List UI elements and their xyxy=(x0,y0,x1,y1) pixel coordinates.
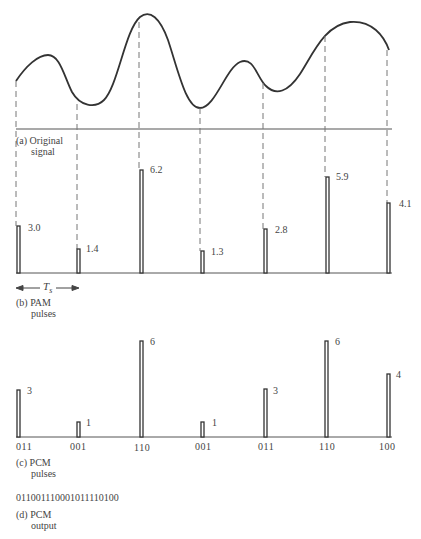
caption-line2: pulses xyxy=(16,308,56,319)
svg-text:1: 1 xyxy=(212,417,217,428)
caption-pcm-output: (d) PCM output xyxy=(16,509,57,531)
caption-line2: pulses xyxy=(16,468,56,479)
svg-text:011: 011 xyxy=(258,441,274,452)
caption-line1: (b) PAM xyxy=(16,297,51,308)
ts-label: Ts xyxy=(43,280,52,295)
svg-text:3: 3 xyxy=(27,385,32,396)
caption-line1: (a) Original xyxy=(16,135,63,146)
pam-pulses xyxy=(17,170,390,273)
svg-text:110: 110 xyxy=(319,441,335,452)
svg-text:5.9: 5.9 xyxy=(336,171,349,182)
svg-text:001: 001 xyxy=(70,441,87,452)
svg-text:1.3: 1.3 xyxy=(211,246,224,257)
caption-pam-pulses: (b) PAM pulses xyxy=(16,297,56,319)
svg-text:2.8: 2.8 xyxy=(275,224,288,235)
svg-text:4.1: 4.1 xyxy=(399,198,412,209)
pam-value-labels: 3.0 1.4 6.2 1.3 2.8 5.9 4.1 xyxy=(28,164,412,257)
pcm-bitstream: 011001110001011110100 xyxy=(16,492,119,503)
caption-pcm-pulses: (c) PCM pulses xyxy=(16,457,56,479)
pcm-pulses xyxy=(17,341,390,437)
svg-text:1.4: 1.4 xyxy=(86,243,99,254)
svg-text:3: 3 xyxy=(273,385,278,396)
svg-text:110: 110 xyxy=(134,442,150,453)
caption-line1: (d) PCM xyxy=(16,509,51,520)
caption-line2: output xyxy=(16,520,57,531)
pcm-code-labels: 011 001 110 001 011 110 100 xyxy=(16,441,396,453)
caption-line2: signal xyxy=(16,146,63,157)
svg-text:3.0: 3.0 xyxy=(28,222,41,233)
sampling-lines xyxy=(16,22,387,251)
svg-text:100: 100 xyxy=(379,441,396,452)
svg-text:1: 1 xyxy=(86,417,91,428)
caption-line1: (c) PCM xyxy=(16,457,51,468)
caption-original-signal: (a) Original signal xyxy=(16,135,63,157)
svg-text:6: 6 xyxy=(150,336,155,347)
original-signal-curve xyxy=(16,14,389,108)
svg-text:6.2: 6.2 xyxy=(150,164,163,175)
svg-text:4: 4 xyxy=(396,369,401,380)
svg-text:6: 6 xyxy=(335,336,340,347)
svg-text:001: 001 xyxy=(195,441,212,452)
pcm-figure: 3.0 1.4 6.2 1.3 2.8 5.9 4.1 Ts 3 1 6 1 3… xyxy=(0,0,421,539)
pcm-value-labels: 3 1 6 1 3 6 4 xyxy=(27,336,401,428)
svg-text:011: 011 xyxy=(16,441,32,452)
